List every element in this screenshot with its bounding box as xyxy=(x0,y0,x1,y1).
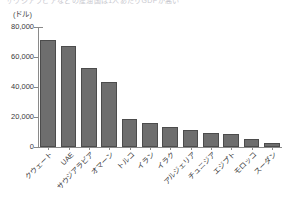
cut-off-caption: サウジアラビアなどの産油国は1人あたりGDPが高い xyxy=(6,0,282,7)
x-axis-tick-labels: クウェートUAEサウジアラビアオマーントルコイランイラクアルジェリアチュニジアエ… xyxy=(38,151,288,204)
chart-figure: サウジアラビアなどの産油国は1人あたりGDPが高い (ドル) 020,00040… xyxy=(0,0,288,204)
y-axis-tick-label: 0 xyxy=(0,143,34,151)
y-axis-tick-label: 80,000 xyxy=(0,23,34,31)
bar xyxy=(81,68,96,148)
bar xyxy=(40,40,55,147)
y-axis-tick-label: 20,000 xyxy=(0,113,34,121)
y-axis-tick-label: 40,000 xyxy=(0,83,34,91)
y-axis-tick-label: 60,000 xyxy=(0,53,34,61)
